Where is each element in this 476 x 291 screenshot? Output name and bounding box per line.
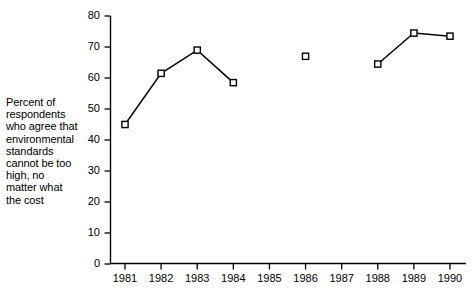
data-point-marker[interactable] [447, 33, 453, 39]
x-tick-label: 1988 [358, 272, 398, 284]
y-tick-label: 40 [74, 133, 100, 145]
x-tick-label: 1984 [213, 272, 253, 284]
y-tick-label: 80 [74, 9, 100, 21]
data-point-marker[interactable] [158, 70, 164, 76]
y-tick-label: 0 [74, 257, 100, 269]
line-segment [125, 50, 233, 124]
x-tick-label: 1987 [322, 272, 362, 284]
y-tick-label: 10 [74, 226, 100, 238]
line-chart [0, 0, 476, 291]
chart-screenshot: Percent of respondents who agree that en… [0, 0, 476, 291]
y-tick-label: 50 [74, 102, 100, 114]
x-axis-ticks [125, 264, 450, 270]
y-tick-label: 70 [74, 40, 100, 52]
x-tick-label: 1990 [430, 272, 470, 284]
y-tick-label: 60 [74, 71, 100, 83]
data-point-marker[interactable] [302, 53, 308, 59]
data-point-marker[interactable] [375, 61, 381, 67]
x-tick-label: 1981 [105, 272, 145, 284]
y-axis-ticks [105, 16, 111, 264]
data-point-marker[interactable] [230, 80, 236, 86]
chart-axes [111, 16, 467, 264]
data-point-marker[interactable] [122, 121, 128, 127]
x-tick-label: 1989 [394, 272, 434, 284]
y-tick-label: 30 [74, 164, 100, 176]
x-tick-label: 1985 [249, 272, 289, 284]
data-point-marker[interactable] [411, 30, 417, 36]
series-data-markers [122, 30, 453, 128]
x-tick-label: 1982 [141, 272, 181, 284]
x-tick-label: 1986 [286, 272, 326, 284]
series-line-segments [125, 33, 450, 124]
data-point-marker[interactable] [194, 47, 200, 53]
y-tick-label: 20 [74, 195, 100, 207]
x-tick-label: 1983 [177, 272, 217, 284]
line-segment [378, 33, 450, 64]
